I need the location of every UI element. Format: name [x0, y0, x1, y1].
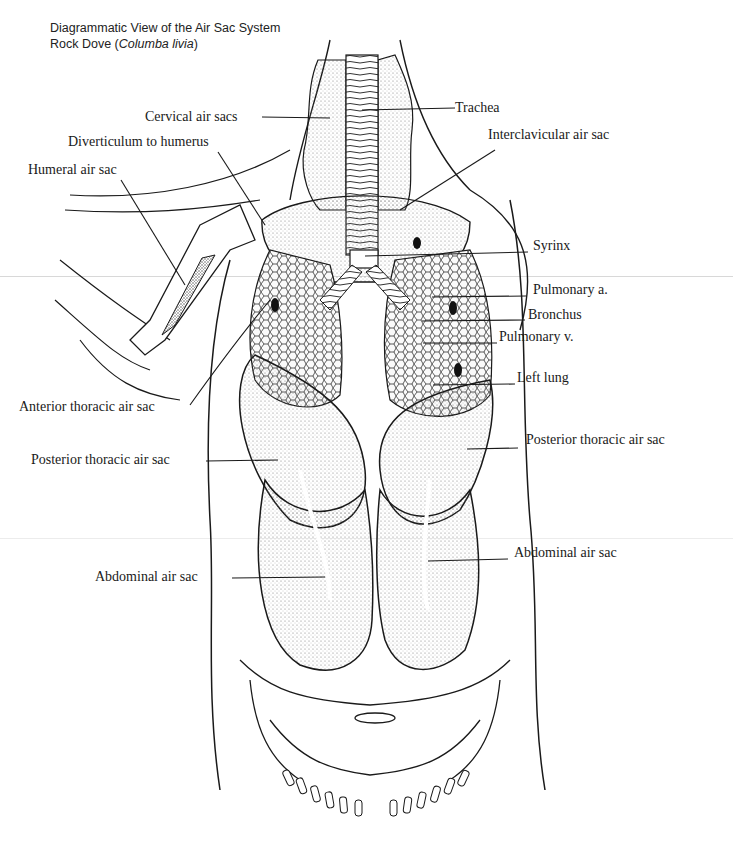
label-trachea: Trachea [455, 100, 500, 116]
vertebral-stubs [282, 769, 470, 816]
label-interclavicular-air-sac: Interclavicular air sac [488, 127, 609, 143]
label-abdominal-air-sac-right: Abdominal air sac [514, 545, 617, 561]
label-posterior-thoracic-air-sac-right: Posterior thoracic air sac [526, 432, 665, 448]
label-left-lung: Left lung [517, 370, 569, 386]
label-abdominal-air-sac-left: Abdominal air sac [95, 569, 198, 585]
label-anterior-thoracic-air-sac: Anterior thoracic air sac [19, 399, 155, 415]
label-bronchus: Bronchus [528, 307, 582, 323]
syrinx [350, 250, 378, 268]
label-pulmonary-v: Pulmonary v. [499, 329, 574, 345]
label-cervical-air-sacs: Cervical air sacs [145, 109, 238, 125]
posterior-thoracic-air-sac-left [240, 355, 366, 528]
pelvis [240, 660, 510, 780]
cervical-air-sacs [303, 60, 346, 210]
air-sac-illustration [0, 0, 733, 842]
cloaca-vent [355, 713, 395, 723]
label-humeral-air-sac: Humeral air sac [28, 162, 117, 178]
label-pulmonary-a: Pulmonary a. [533, 282, 608, 298]
label-posterior-thoracic-air-sac-left: Posterior thoracic air sac [31, 452, 170, 468]
label-diverticulum-to-humerus: Diverticulum to humerus [68, 134, 209, 150]
label-syrinx: Syrinx [533, 238, 570, 254]
